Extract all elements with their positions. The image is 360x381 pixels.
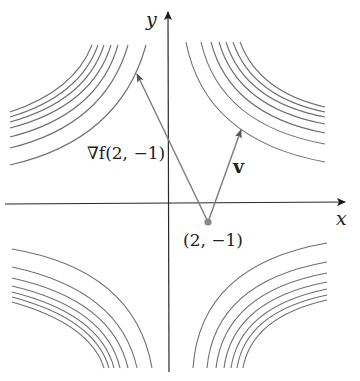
level-curves-upper-right <box>186 42 325 162</box>
y-axis <box>168 12 169 372</box>
y-axis-label: y <box>146 10 157 29</box>
diagram-canvas <box>0 0 360 381</box>
level-curves-lower-right <box>193 243 327 368</box>
level-curve-figure: y x ∇f(2, −1) v (2, −1) <box>0 0 360 381</box>
v-label: v <box>233 157 244 176</box>
level-curves-lower-left <box>12 249 152 368</box>
point-marker <box>204 218 211 225</box>
x-axis <box>5 202 345 204</box>
gradient-label: ∇f(2, −1) <box>87 145 165 162</box>
point-label: (2, −1) <box>183 232 243 249</box>
x-axis-label: x <box>336 209 347 228</box>
